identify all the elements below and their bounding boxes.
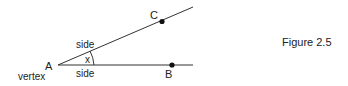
angle-arc [90,51,94,65]
label-a: A [45,60,53,72]
label-vertex: vertex [18,71,45,82]
figure-caption: Figure 2.5 [282,36,332,48]
ray-ac [58,7,193,65]
label-angle-x: x [85,54,90,65]
angle-diagram: C B A vertex side side x Figure 2.5 [0,0,348,86]
label-side-top: side [76,39,95,50]
point-b-dot [169,62,174,67]
label-c: C [150,9,158,21]
point-c-dot [159,19,164,24]
label-b: B [165,68,172,80]
label-side-bottom: side [76,68,95,79]
